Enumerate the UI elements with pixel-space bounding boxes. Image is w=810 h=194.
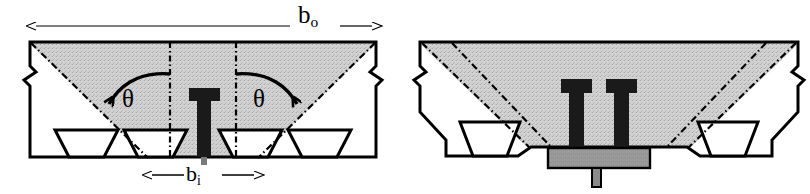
label-theta-left: θ — [122, 86, 134, 111]
label-b-outer-base: b — [298, 1, 311, 28]
label-b-outer: bo — [298, 2, 318, 30]
right-locating-pin — [592, 168, 601, 187]
label-b-outer-subscript: o — [311, 13, 319, 30]
label-b-inner: bi — [186, 163, 201, 187]
label-theta-right: θ — [253, 86, 265, 111]
left-view — [24, 26, 382, 175]
label-b-inner-subscript: i — [197, 173, 201, 188]
label-b-inner-base: b — [186, 161, 197, 186]
right-clamping-plate — [548, 148, 650, 168]
right-view — [414, 42, 804, 187]
